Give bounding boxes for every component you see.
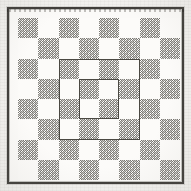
board-square-h2	[160, 140, 180, 160]
board-square-f1	[119, 160, 139, 180]
board-square-b4	[38, 99, 58, 119]
board-square-c8	[59, 18, 79, 38]
board-square-g5	[140, 79, 160, 99]
board-square-c1	[59, 160, 79, 180]
board-square-g7	[140, 38, 160, 58]
board-square-b5	[38, 79, 58, 99]
board-square-f8	[119, 18, 139, 38]
board-square-h5	[160, 79, 180, 99]
board-square-c5	[59, 79, 79, 99]
board-square-g3	[140, 119, 160, 139]
board-square-d7	[79, 38, 99, 58]
board-square-e3	[99, 119, 119, 139]
board-square-f3	[119, 119, 139, 139]
board-square-h3	[160, 119, 180, 139]
board-square-h1	[160, 160, 180, 180]
board-square-g6	[140, 59, 160, 79]
board-square-b2	[38, 140, 58, 160]
board-square-d5	[79, 79, 99, 99]
board-square-g1	[140, 160, 160, 180]
board-square-f6	[119, 59, 139, 79]
board-square-e7	[99, 38, 119, 58]
board-square-c3	[59, 119, 79, 139]
board-square-e5	[99, 79, 119, 99]
board-square-d4	[79, 99, 99, 119]
board-square-g8	[140, 18, 160, 38]
board-square-c7	[59, 38, 79, 58]
board-square-c2	[59, 140, 79, 160]
board-square-d3	[79, 119, 99, 139]
board-square-e1	[99, 160, 119, 180]
board-square-h8	[160, 18, 180, 38]
chessboard-grid	[18, 18, 180, 180]
board-square-a7	[18, 38, 38, 58]
board-square-b1	[38, 160, 58, 180]
board-square-a3	[18, 119, 38, 139]
board-mat	[18, 18, 180, 180]
board-square-b7	[38, 38, 58, 58]
board-square-e2	[99, 140, 119, 160]
board-outer-frame	[7, 7, 184, 184]
board-square-a1	[18, 160, 38, 180]
board-square-a6	[18, 59, 38, 79]
board-square-a2	[18, 140, 38, 160]
board-square-h6	[160, 59, 180, 79]
chessboard-figure	[0, 0, 191, 191]
board-square-g4	[140, 99, 160, 119]
board-square-g2	[140, 140, 160, 160]
board-square-b8	[38, 18, 58, 38]
board-square-f5	[119, 79, 139, 99]
board-square-f4	[119, 99, 139, 119]
board-square-e4	[99, 99, 119, 119]
board-square-c4	[59, 99, 79, 119]
board-square-c6	[59, 59, 79, 79]
board-square-d2	[79, 140, 99, 160]
board-square-d6	[79, 59, 99, 79]
board-square-d1	[79, 160, 99, 180]
board-square-f7	[119, 38, 139, 58]
board-square-e8	[99, 18, 119, 38]
board-square-b3	[38, 119, 58, 139]
board-square-a4	[18, 99, 38, 119]
board-square-d8	[79, 18, 99, 38]
board-square-f2	[119, 140, 139, 160]
board-square-e6	[99, 59, 119, 79]
board-square-a8	[18, 18, 38, 38]
board-square-h7	[160, 38, 180, 58]
board-square-b6	[38, 59, 58, 79]
board-square-a5	[18, 79, 38, 99]
board-square-h4	[160, 99, 180, 119]
